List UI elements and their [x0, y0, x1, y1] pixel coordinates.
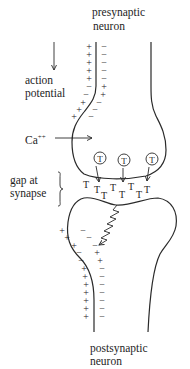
vesicle-3-label: T — [149, 155, 155, 165]
postsynaptic-outer-charges: + + + − − + + + + + + + — [59, 225, 89, 322]
signal-zigzag — [99, 205, 119, 245]
svg-text:T: T — [144, 184, 150, 195]
svg-text:T: T — [128, 181, 134, 192]
svg-text:T: T — [101, 190, 107, 201]
svg-text:T: T — [136, 189, 142, 200]
svg-text:+: + — [64, 232, 70, 243]
svg-text:−: − — [99, 311, 105, 322]
svg-text:+: + — [83, 311, 89, 322]
presynaptic-outer-charges: + + + + + − − + + + — [71, 41, 92, 122]
release-arrow-1 — [96, 166, 99, 182]
svg-text:T: T — [110, 182, 116, 193]
svg-text:T: T — [119, 189, 125, 200]
svg-text:+: + — [76, 104, 82, 115]
vesicle-2-label: T — [121, 156, 127, 166]
svg-text:+: + — [71, 111, 77, 122]
release-arrow-3 — [147, 167, 149, 181]
transmitters-in-gap: T T T T T T T T — [83, 179, 150, 201]
transmitter-vesicles: T T T — [94, 152, 158, 166]
gap-brace — [58, 172, 63, 206]
vesicle-1-label: T — [97, 154, 103, 164]
svg-text:−: − — [88, 111, 94, 122]
svg-text:T: T — [94, 184, 100, 195]
svg-text:T: T — [83, 179, 89, 190]
